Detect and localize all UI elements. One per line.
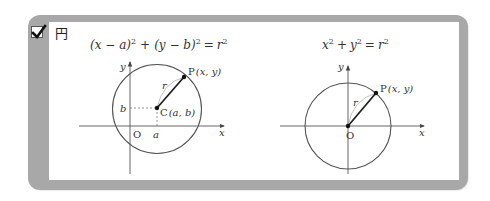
left-p-point (182, 75, 186, 79)
left-figure: (x − a)2+(y − b)2=r2 x y O a b C(a, b) P… (79, 37, 228, 174)
left-x-label: x (219, 127, 225, 138)
left-a-label: a (153, 129, 159, 140)
right-p-label: P(x, y) (380, 83, 413, 94)
left-center-label: C(a, b) (160, 107, 195, 118)
left-formula: (x − a)2+(y − b)2=r2 (90, 37, 228, 52)
left-p-label: P(x, y) (188, 66, 221, 77)
right-origin-point (346, 124, 350, 128)
left-b-label: b (120, 103, 126, 114)
left-origin-label: O (133, 129, 141, 140)
right-origin-label: O (346, 130, 354, 141)
left-center-point (155, 106, 159, 110)
right-formula: x2+y2=r2 (322, 37, 389, 52)
right-y-label: y (337, 61, 344, 72)
right-figure: x2+y2=r2 x y O P(x, y) r (280, 37, 425, 174)
right-p-point (374, 91, 378, 95)
right-r-label: r (353, 97, 359, 108)
left-y-label: y (119, 61, 126, 72)
left-r-label: r (162, 80, 168, 91)
right-x-label: x (419, 127, 425, 138)
circle-diagrams: (x − a)2+(y − b)2=r2 x y O a b C(a, b) P… (0, 0, 490, 201)
